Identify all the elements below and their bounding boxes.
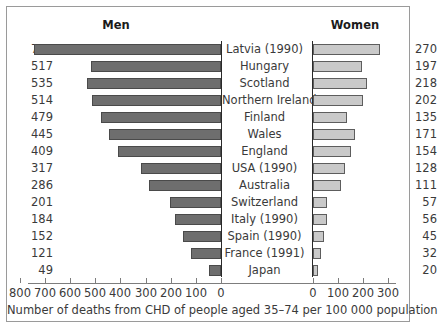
men-value-label: 317 bbox=[7, 160, 53, 177]
women-value-label: 171 bbox=[397, 126, 437, 143]
chart-row: 517Hungary197 bbox=[7, 58, 411, 75]
chart-row: 445Wales171 bbox=[7, 126, 411, 143]
men-value-label: 479 bbox=[7, 109, 53, 126]
chart-row: 201Switzerland57 bbox=[7, 194, 411, 211]
women-value-label: 128 bbox=[397, 160, 437, 177]
country-label: Wales bbox=[222, 126, 307, 143]
men-value-label: 184 bbox=[7, 211, 53, 228]
men-value-label: 49 bbox=[7, 262, 53, 279]
men-bar bbox=[92, 95, 221, 106]
men-bar bbox=[87, 78, 221, 89]
women-bar bbox=[313, 248, 321, 259]
women-bar bbox=[313, 163, 345, 174]
men-bar bbox=[109, 129, 221, 140]
men-bar bbox=[175, 214, 221, 225]
men-value-label: 517 bbox=[7, 58, 53, 75]
women-value-label: 197 bbox=[397, 58, 437, 75]
women-value-label: 56 bbox=[397, 211, 437, 228]
country-label: England bbox=[222, 143, 307, 160]
chart-row: 152Spain (1990)45 bbox=[7, 228, 411, 245]
women-value-label: 111 bbox=[397, 177, 437, 194]
women-bar bbox=[313, 61, 362, 72]
country-label: France (1991) bbox=[222, 245, 307, 262]
chart-row: 49Japan20 bbox=[7, 262, 411, 279]
men-bar bbox=[191, 248, 221, 259]
men-bar bbox=[149, 180, 221, 191]
women-bar bbox=[313, 214, 327, 225]
x-tick-left bbox=[120, 278, 121, 283]
men-bar bbox=[170, 197, 221, 208]
men-bar bbox=[91, 61, 221, 72]
women-bar bbox=[313, 129, 355, 140]
country-label: Japan bbox=[222, 262, 307, 279]
column-header-women: Women bbox=[319, 18, 391, 32]
x-tick-left bbox=[146, 278, 147, 283]
men-value-label: 514 bbox=[7, 92, 53, 109]
chart-row: 184Italy (1990)56 bbox=[7, 211, 411, 228]
chart-row: 409England154 bbox=[7, 143, 411, 160]
x-tick-left bbox=[45, 278, 46, 283]
men-value-label: 201 bbox=[7, 194, 53, 211]
men-value-label: 152 bbox=[7, 228, 53, 245]
x-tick-left bbox=[196, 278, 197, 283]
x-tick-right bbox=[338, 278, 339, 283]
x-tick-label-left: 0 bbox=[201, 286, 241, 300]
women-value-label: 270 bbox=[397, 41, 437, 58]
men-value-label: 535 bbox=[7, 75, 53, 92]
men-value-label: 409 bbox=[7, 143, 53, 160]
country-label: Northern Ireland bbox=[222, 92, 307, 109]
x-tick-left bbox=[70, 278, 71, 283]
women-value-label: 20 bbox=[397, 262, 437, 279]
women-value-label: 32 bbox=[397, 245, 437, 262]
women-value-label: 218 bbox=[397, 75, 437, 92]
x-tick-right bbox=[363, 278, 364, 283]
x-tick-right bbox=[313, 278, 314, 283]
x-tick-left bbox=[171, 278, 172, 283]
women-bar bbox=[313, 146, 351, 157]
country-label: Australia bbox=[222, 177, 307, 194]
country-label: Switzerland bbox=[222, 194, 307, 211]
women-value-label: 57 bbox=[397, 194, 437, 211]
x-tick-left bbox=[221, 278, 222, 283]
chart-frame: Men Women 744Latvia (1990)270517Hungary1… bbox=[6, 6, 410, 322]
women-bar bbox=[313, 95, 363, 106]
chart-row: 744Latvia (1990)270 bbox=[7, 41, 411, 58]
country-label: Italy (1990) bbox=[222, 211, 307, 228]
chart-row: 317USA (1990)128 bbox=[7, 160, 411, 177]
women-value-label: 45 bbox=[397, 228, 437, 245]
chart-plot-area: 744Latvia (1990)270517Hungary197535Scotl… bbox=[7, 41, 411, 277]
chart-row: 286Australia111 bbox=[7, 177, 411, 194]
column-header-men: Men bbox=[7, 18, 225, 32]
women-bar bbox=[313, 265, 318, 276]
women-bar bbox=[313, 78, 367, 89]
x-tick-left bbox=[20, 278, 21, 283]
chart-row: 535Scotland218 bbox=[7, 75, 411, 92]
women-value-label: 135 bbox=[397, 109, 437, 126]
men-bar bbox=[101, 112, 221, 123]
women-value-label: 154 bbox=[397, 143, 437, 160]
x-tick-label-right: 300 bbox=[368, 286, 408, 300]
women-bar bbox=[313, 231, 324, 242]
women-bar bbox=[313, 180, 341, 191]
men-bar bbox=[183, 231, 221, 242]
women-bar bbox=[313, 197, 327, 208]
country-label: Spain (1990) bbox=[222, 228, 307, 245]
country-label: Finland bbox=[222, 109, 307, 126]
chart-row: 121France (1991)32 bbox=[7, 245, 411, 262]
chart-row: 514Northern Ireland202 bbox=[7, 92, 411, 109]
men-bar bbox=[141, 163, 221, 174]
x-tick-left bbox=[95, 278, 96, 283]
women-bar bbox=[313, 44, 380, 55]
country-label: Hungary bbox=[222, 58, 307, 75]
men-bar bbox=[34, 44, 221, 55]
women-bar bbox=[313, 112, 347, 123]
country-label: Latvia (1990) bbox=[222, 41, 307, 58]
country-label: USA (1990) bbox=[222, 160, 307, 177]
men-value-label: 445 bbox=[7, 126, 53, 143]
country-label: Scotland bbox=[222, 75, 307, 92]
x-axis-line bbox=[28, 283, 396, 284]
men-bar bbox=[118, 146, 221, 157]
x-tick-right bbox=[388, 278, 389, 283]
men-value-label: 121 bbox=[7, 245, 53, 262]
men-value-label: 286 bbox=[7, 177, 53, 194]
